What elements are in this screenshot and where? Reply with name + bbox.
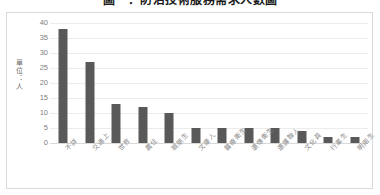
- y-tick-label: 30: [26, 49, 48, 57]
- bar-slot: [103, 23, 130, 143]
- bar-slot: [315, 23, 342, 143]
- bar[interactable]: [138, 107, 147, 143]
- y-tick-label: 40: [26, 19, 48, 27]
- bar[interactable]: [85, 62, 94, 143]
- y-axis-tick-labels: 4035302520151050: [26, 19, 48, 147]
- bar-slot: [77, 23, 104, 143]
- y-tick-label: 0: [26, 139, 48, 147]
- x-axis-tick-labels: 不詳交通上世界農住親朋生文康人醫療衛生遺傳衛生遺護聯人文化員行業生明雨生: [50, 145, 368, 193]
- bar-slot: [209, 23, 236, 143]
- bar[interactable]: [165, 113, 174, 143]
- bar[interactable]: [112, 104, 121, 143]
- y-tick-label: 15: [26, 94, 48, 102]
- bar-slot: [50, 23, 77, 143]
- bar-slot: [130, 23, 157, 143]
- y-tick-label: 20: [26, 79, 48, 87]
- bar[interactable]: [59, 29, 68, 143]
- y-tick-label: 25: [26, 64, 48, 72]
- bar-chart-figure: 圖一：防治技術服務需求人數圖 單位：人 4035302520151050 不詳交…: [0, 0, 380, 195]
- chart-plot-area: [50, 23, 368, 143]
- y-tick-label: 35: [26, 34, 48, 42]
- bar-slot: [156, 23, 183, 143]
- chart-title: 圖一：防治技術服務需求人數圖: [0, 0, 380, 7]
- bar-slot: [183, 23, 210, 143]
- y-axis-title: 單位：人: [14, 59, 24, 91]
- y-tick-label: 5: [26, 124, 48, 132]
- bar-slot: [262, 23, 289, 143]
- y-tick-label: 10: [26, 109, 48, 117]
- bar-slot: [342, 23, 369, 143]
